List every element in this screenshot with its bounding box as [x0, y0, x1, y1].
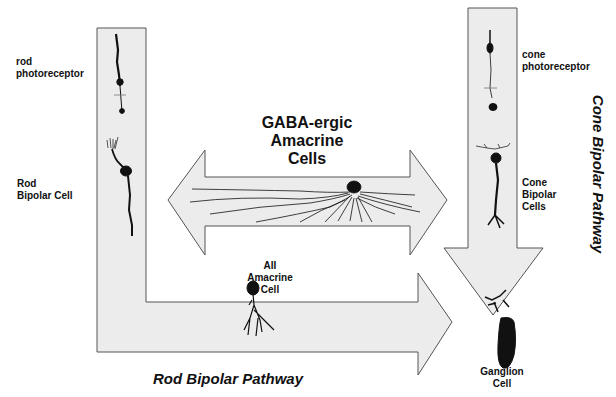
- label-ganglion-cell: Ganglion Cell: [472, 366, 532, 390]
- label-rod-photoreceptor: rod photoreceptor: [16, 56, 84, 80]
- cone-pathway-title: Cone Bipolar Pathway: [590, 95, 607, 253]
- label-rod-bipolar-cell: Rod Bipolar Cell: [17, 178, 73, 202]
- rod-pathway-title: Rod Bipolar Pathway: [153, 370, 303, 387]
- label-cone-bipolar-cells: Cone Bipolar Cells: [522, 177, 556, 213]
- label-gaba-amacrine-cells: GABA-ergic Amacrine Cells: [252, 114, 362, 168]
- label-aii-amacrine-cell: AII Amacrine Cell: [240, 260, 300, 296]
- label-cone-photoreceptor: cone photoreceptor: [522, 49, 590, 73]
